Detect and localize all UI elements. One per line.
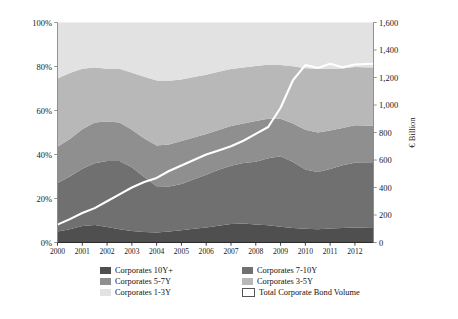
legend-item-corporates-3-5y: Corporates 3-5Y [242, 276, 420, 287]
x-axis-tick-label: 2012 [347, 247, 362, 256]
legend-swatch-corporates-7-10y [242, 267, 253, 274]
legend-item-corporates-10y-plus: Corporates 10Y+ [100, 265, 242, 276]
x-axis-tick-label: 2000 [50, 247, 65, 256]
y-axis-right-tick-label: 200 [379, 210, 392, 220]
chart-legend: Corporates 10Y+ Corporates 7-10Y Corpora… [100, 265, 420, 298]
y-axis-right-tick-label: 1,400 [379, 45, 398, 55]
y-axis-left-tick-label: 0% [41, 238, 52, 248]
x-axis-tick-label: 2011 [323, 247, 338, 256]
y-axis-left-tick-label: 60% [36, 106, 52, 116]
legend-label-corporates-10y-plus: Corporates 10Y+ [115, 265, 173, 276]
y-axis-left-tick-label: 100% [32, 18, 52, 28]
legend-item-corporates-7-10y: Corporates 7-10Y [242, 265, 420, 276]
x-axis-tick-label: 2010 [298, 247, 313, 256]
x-axis-tick-label: 2005 [174, 247, 189, 256]
x-axis-tick-label: 2003 [124, 247, 139, 256]
y-axis-right-tick-label: 1,600 [379, 18, 398, 28]
y-axis-right-tick-label: 1,000 [379, 100, 398, 110]
x-axis-tick-label: 2006 [199, 247, 214, 256]
x-axis-tick-label: 2009 [273, 247, 288, 256]
legend-label-total-corporate-bond-volume: Total Corporate Bond Volume [259, 287, 360, 298]
x-axis-tick-label: 2008 [248, 247, 263, 256]
legend-swatch-corporates-3-5y [242, 278, 253, 285]
y-axis-left-tick-label: 80% [36, 62, 52, 72]
legend-swatch-corporates-10y-plus [100, 267, 111, 274]
x-axis-tick-label: 2004 [149, 247, 164, 256]
legend-label-corporates-3-5y: Corporates 3-5Y [257, 276, 313, 287]
legend-item-corporates-1-3y: Corporates 1-3Y [100, 287, 242, 298]
x-axis-tick-label: 2007 [223, 247, 238, 256]
legend-label-corporates-1-3y: Corporates 1-3Y [115, 287, 171, 298]
x-axis-tick-label: 2001 [75, 247, 90, 256]
y-axis-left-tick-label: 20% [36, 194, 52, 204]
y-axis-right-tick-label: 0 [379, 238, 383, 248]
y-axis-left-tick-label: 40% [36, 150, 52, 160]
legend-label-corporates-5-7y: Corporates 5-7Y [115, 276, 171, 287]
legend-item-corporates-5-7y: Corporates 5-7Y [100, 276, 242, 287]
legend-item-total-corporate-bond-volume: Total Corporate Bond Volume [242, 287, 420, 298]
y-axis-right-tick-label: 800 [379, 128, 392, 138]
legend-label-corporates-7-10y: Corporates 7-10Y [257, 265, 317, 276]
y-axis-right-title: € Billion [407, 117, 417, 148]
legend-swatch-corporates-1-3y [100, 289, 111, 296]
y-axis-right-tick-label: 600 [379, 155, 392, 165]
y-axis-right-tick-label: 400 [379, 183, 392, 193]
chart-figure: 0%20%40%60%80%100%02004006008001,0001,20… [0, 0, 458, 319]
legend-swatch-corporates-5-7y [100, 278, 111, 285]
y-axis-right-tick-label: 1,200 [379, 73, 398, 83]
legend-swatch-total-corporate-bond-volume [242, 288, 255, 297]
x-axis-tick-label: 2002 [99, 247, 114, 256]
